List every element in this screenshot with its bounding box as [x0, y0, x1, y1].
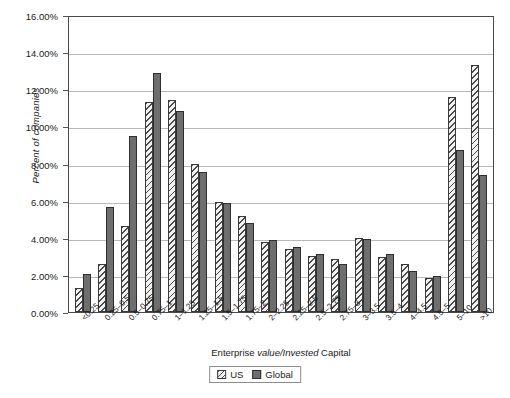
bar-us [471, 65, 479, 312]
bar-group [468, 17, 491, 312]
bar-global [199, 172, 207, 312]
bar-group [164, 17, 187, 312]
bar-us [75, 288, 83, 312]
bar-global [456, 150, 464, 312]
y-axis-tick-label: 10.00% [26, 122, 58, 133]
y-axis-tick-label: 16.00% [26, 11, 58, 22]
bar-chart: Percent of companies 16.00%14.00%12.00%1… [0, 0, 510, 398]
bar-group [258, 17, 281, 312]
bar-global [153, 73, 161, 312]
bar-group [281, 17, 304, 312]
bar-group [188, 17, 211, 312]
chart-legend: USGlobal [209, 366, 301, 383]
legend-label: US [230, 369, 243, 380]
bar-group [444, 17, 467, 312]
bar-group [211, 17, 234, 312]
y-axis-tick-label: 12.00% [26, 85, 58, 96]
bar-global [339, 264, 347, 312]
x-axis-title-emphasis: value/Invested [257, 347, 318, 358]
bar-group [141, 17, 164, 312]
legend-swatch-us-icon [217, 370, 226, 379]
bar-global [316, 254, 324, 312]
y-axis-tick-label: 0.00% [31, 308, 58, 319]
bar-global [269, 240, 277, 312]
bar-us [191, 164, 199, 312]
y-axis-tick-label: 8.00% [31, 159, 58, 170]
bar-us [145, 102, 153, 312]
bar-global [409, 271, 417, 312]
legend-swatch-global-icon [252, 370, 261, 379]
bar-group [374, 17, 397, 312]
legend-item-global[interactable]: Global [252, 369, 292, 380]
y-axis-tick-label: 2.00% [31, 270, 58, 281]
y-axis-tick-label: 14.00% [26, 48, 58, 59]
bar-group [304, 17, 327, 312]
plot-area [68, 16, 494, 313]
bar-group [398, 17, 421, 312]
y-axis-tick-label: 6.00% [31, 196, 58, 207]
bar-global [176, 111, 184, 312]
bar-global [106, 207, 114, 312]
bar-group [234, 17, 257, 312]
bar-group [351, 17, 374, 312]
bar-group [118, 17, 141, 312]
bar-global [479, 175, 487, 312]
bar-us [448, 97, 456, 312]
x-axis-title: Enterprise value/Invested Capital [68, 347, 494, 358]
bar-group [94, 17, 117, 312]
bar-group [328, 17, 351, 312]
bar-global [129, 136, 137, 312]
y-axis-tick-label: 4.00% [31, 233, 58, 244]
bar-group [71, 17, 94, 312]
x-axis-title-prefix: Enterprise [211, 347, 257, 358]
legend-label: Global [265, 369, 292, 380]
y-axis-labels: 16.00%14.00%12.00%10.00%8.00%6.00%4.00%2… [0, 0, 66, 398]
bar-group [421, 17, 444, 312]
bar-global [363, 239, 371, 312]
bar-global [386, 254, 394, 312]
bars-layer [69, 17, 493, 312]
bar-global [223, 203, 231, 312]
bar-global [293, 247, 301, 312]
bar-us [168, 100, 176, 312]
x-axis-title-suffix: Capital [318, 347, 350, 358]
legend-item-us[interactable]: US [217, 369, 243, 380]
